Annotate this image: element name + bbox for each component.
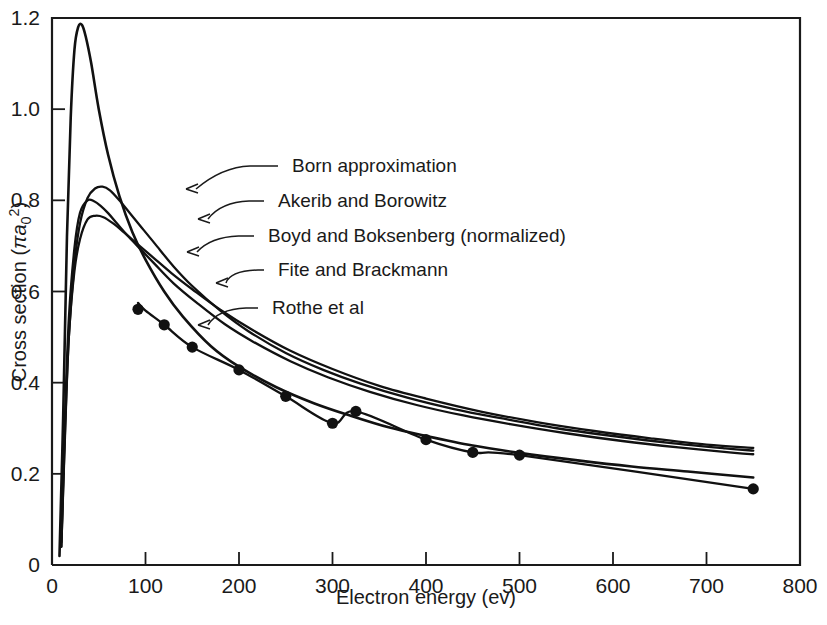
leader-line [196,166,278,189]
x-axis-title: Electron energy (ev) [336,586,516,608]
data-point [467,447,478,458]
y-tick-label-1.2: 1.2 [11,6,40,29]
data-points-group [132,304,758,495]
data-point [514,450,525,461]
data-point [748,483,759,494]
data-point [159,319,170,330]
y-tick-label-1: 1.0 [11,97,40,120]
annotation-label: Rothe et al [272,297,364,318]
x-tick-label-100: 100 [128,574,163,597]
data-point [420,434,431,445]
leader-line [208,308,258,325]
curve-born-approximation [59,24,753,556]
y-axis-title: Cross section (πa02) [6,202,34,383]
annotation-label: Fite and Brackmann [278,259,448,280]
data-point [187,342,198,353]
y-tick-label-0: 0 [28,553,40,576]
x-tick-label-700: 700 [689,574,724,597]
x-tick-label-600: 600 [595,574,630,597]
cross-section-chart: 0100200300400500600700800 00.20.40.60.81… [0,0,827,625]
x-tick-label-0: 0 [46,574,58,597]
annotation-labels: Born approximationAkerib and BorowitzBoy… [268,155,566,318]
data-point [132,304,143,315]
curve-series-group [59,24,753,556]
data-point [350,406,361,417]
curve-boyd-and-boksenberg-normalized [61,200,753,543]
curve-rothe-et-al [138,303,753,489]
annotation-label: Akerib and Borowitz [278,190,447,211]
y-axis-title-group: Cross section (πa02) [6,202,34,383]
leader-line [208,201,264,219]
leader-line [197,236,254,252]
annotation-label: Boyd and Boksenberg (normalized) [268,225,566,246]
leader-line [226,270,264,283]
data-point [327,418,338,429]
x-tick-label-800: 800 [782,574,817,597]
x-axis-ticks [146,552,707,565]
y-tick-label-0.2: 0.2 [11,462,40,485]
y-axis-title-superscript: 2 [6,208,22,216]
data-point [233,364,244,375]
figure-container: 0100200300400500600700800 00.20.40.60.81… [0,0,827,625]
annotation-label: Born approximation [292,155,457,176]
y-axis-title-subscript: 0 [18,216,34,224]
x-tick-label-200: 200 [221,574,256,597]
data-point [280,391,291,402]
